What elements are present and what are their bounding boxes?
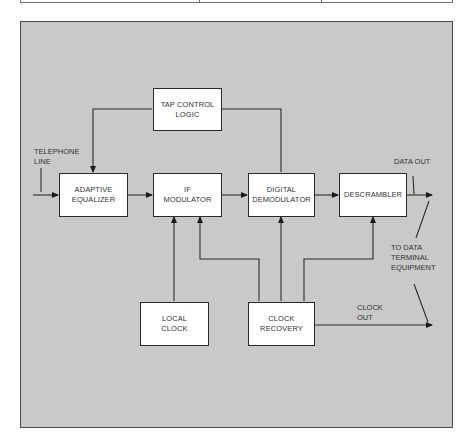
block-label: LOCAL: [161, 314, 187, 324]
block-label: CLOCK: [161, 324, 187, 334]
local-clock-block: LOCAL CLOCK: [140, 302, 209, 346]
block-label: TAP CONTROL: [161, 100, 215, 110]
clock-recovery-block: CLOCK RECOVERY: [248, 302, 315, 346]
block-label: EQUALIZER: [72, 195, 115, 205]
label-line: TELEPHONE: [34, 147, 79, 157]
descrambler-block: DESCRAMBLER: [339, 173, 407, 217]
block-label: RECOVERY: [260, 324, 303, 334]
tap-control-logic-block: TAP CONTROL LOGIC: [153, 88, 222, 131]
block-label: DIGITAL: [252, 185, 311, 195]
label-line: TERMINAL: [391, 253, 436, 263]
label-line: OUT: [357, 313, 383, 323]
label-line: EQUIPMENT: [391, 263, 436, 273]
block-label: IF: [163, 185, 211, 195]
block-label: DEMODULATOR: [252, 195, 311, 205]
clock-out-label: CLOCK OUT: [357, 303, 383, 323]
connection-wires: [0, 0, 468, 440]
block-label: LOGIC: [161, 110, 215, 120]
data-out-label: DATA OUT: [394, 157, 430, 167]
label-line: TO DATA: [391, 243, 436, 253]
adaptive-equalizer-block: ADAPTIVE EQUALIZER: [59, 173, 128, 217]
label-line: CLOCK: [357, 303, 383, 313]
to-data-terminal-equipment-label: TO DATA TERMINAL EQUIPMENT: [391, 243, 436, 273]
block-label: MODULATOR: [163, 195, 211, 205]
telephone-line-label: TELEPHONE LINE: [34, 147, 79, 167]
block-label: CLOCK: [260, 314, 303, 324]
block-label: ADAPTIVE: [72, 185, 115, 195]
block-label: DESCRAMBLER: [344, 190, 402, 200]
digital-demodulator-block: DIGITAL DEMODULATOR: [248, 173, 315, 217]
label-line: LINE: [34, 157, 79, 167]
if-modulator-block: IF MODULATOR: [153, 173, 222, 217]
